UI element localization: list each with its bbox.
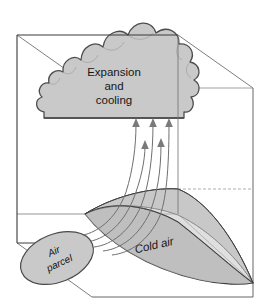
air-parcel: Air parcel [13, 222, 101, 295]
cloud-label-line-2: and [104, 80, 123, 92]
cloud-label-line-1: Expansion [87, 66, 141, 78]
arrowhead-5 [165, 118, 173, 127]
cloud-label-line-3: cooling [96, 94, 132, 106]
arrowhead-1 [132, 118, 140, 127]
diagram-figure: Air parcel Expansion and cooling Cold ai… [0, 0, 267, 306]
diagram-canvas: Air parcel Expansion and cooling Cold ai… [0, 0, 267, 306]
arrowhead-2 [141, 140, 149, 149]
arrowhead-3 [149, 118, 157, 127]
arrowhead-4 [157, 138, 165, 147]
